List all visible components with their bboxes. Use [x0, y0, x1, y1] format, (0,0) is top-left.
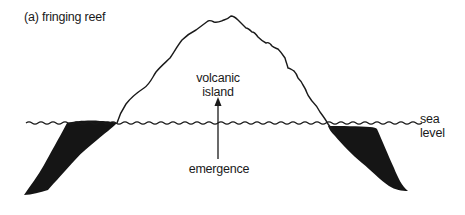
emergence-arrow [215, 97, 222, 159]
emergence-label: emergence [179, 162, 259, 176]
volcanic-island-label-line1: volcanic [178, 71, 258, 85]
right-fringing-reef [328, 126, 408, 191]
volcanic-island-label-line2: island [178, 85, 258, 99]
sea-level-label: sea level [420, 112, 445, 140]
sea-level-label-line1: sea [420, 112, 445, 126]
sea-level-label-line2: level [420, 126, 445, 140]
fringing-reef-diagram: (a) fringing reef volcanic island emerge… [0, 0, 465, 215]
left-fringing-reef [24, 121, 117, 195]
volcanic-island-label: volcanic island [178, 71, 258, 99]
diagram-title: (a) fringing reef [24, 10, 105, 24]
diagram-canvas [0, 0, 465, 215]
